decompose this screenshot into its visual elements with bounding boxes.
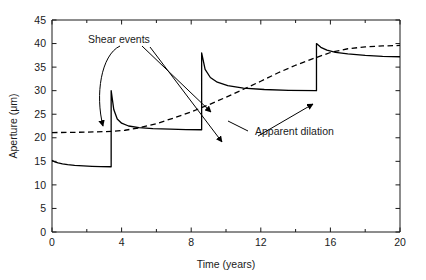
y-tick-label: 0 <box>40 226 46 238</box>
shear-arrow-3 <box>150 47 222 142</box>
x-tick-label: 4 <box>119 236 125 248</box>
annotation-shear-events: Shear events <box>88 33 150 45</box>
x-axis-ticks <box>52 20 400 232</box>
y-tick-label: 5 <box>40 202 46 214</box>
y-axis-ticks <box>52 20 400 232</box>
y-axis-title: Aperture (μm) <box>7 94 19 159</box>
series-apparent-dilation <box>52 45 400 132</box>
x-axis-title: Time (years) <box>197 258 256 270</box>
y-axis-tick-labels: 051015202530354045 <box>34 14 46 238</box>
y-tick-label: 15 <box>34 155 46 167</box>
figure-aperture-vs-time: 051015202530354045 048121620 Aperture (μ… <box>0 0 426 280</box>
series-aperture-sawtooth <box>52 44 400 167</box>
y-tick-label: 10 <box>34 179 46 191</box>
x-tick-label: 8 <box>188 236 194 248</box>
x-tick-label: 0 <box>49 236 55 248</box>
y-tick-label: 25 <box>34 108 46 120</box>
chart-canvas: 051015202530354045 048121620 Aperture (μ… <box>0 0 426 280</box>
y-tick-label: 20 <box>34 131 46 143</box>
y-tick-label: 40 <box>34 37 46 49</box>
x-axis-tick-labels: 048121620 <box>49 236 406 248</box>
y-tick-label: 35 <box>34 61 46 73</box>
x-tick-label: 20 <box>394 236 406 248</box>
y-tick-label: 30 <box>34 84 46 96</box>
annotation-apparent-dilation: Apparent dilation <box>255 125 334 137</box>
apparent-dilation-leader <box>228 121 248 131</box>
y-tick-label: 45 <box>34 14 46 26</box>
x-tick-label: 16 <box>325 236 337 248</box>
shear-arrow-1 <box>100 46 120 126</box>
axes-frame <box>52 20 400 232</box>
shear-arrow-2 <box>142 46 211 112</box>
x-tick-label: 12 <box>255 236 267 248</box>
